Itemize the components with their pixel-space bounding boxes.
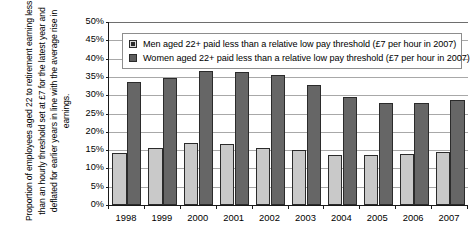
x-axis-tick-mark — [467, 205, 468, 209]
x-axis-tick-label: 2007 — [439, 212, 460, 223]
x-axis-tick-mark — [180, 205, 181, 209]
x-axis-tick-label: 2004 — [331, 212, 352, 223]
legend-item-women: Women aged 22+ paid less than a relative… — [129, 51, 456, 65]
x-axis-tick-mark — [252, 205, 253, 209]
bar-women-2007 — [450, 100, 464, 205]
bar-chart: Proportion of employees aged 22 to retir… — [0, 0, 475, 234]
y-axis-tick-label: 40% — [86, 54, 104, 63]
x-axis-tick-label: 2001 — [223, 212, 244, 223]
x-axis-tick-mark — [323, 205, 324, 209]
x-axis-tick-label: 2002 — [259, 212, 280, 223]
x-axis-tick-mark — [288, 205, 289, 209]
y-axis-tick-label: 20% — [86, 127, 104, 136]
bar-men-2007 — [436, 152, 450, 205]
y-axis-tick-label: 25% — [86, 109, 104, 118]
x-axis-tick-mark — [216, 205, 217, 209]
x-axis-tick-label: 1999 — [151, 212, 172, 223]
y-axis-tick-label: 5% — [91, 182, 104, 191]
x-axis-tick-label: 2005 — [367, 212, 388, 223]
legend-swatch-men-icon — [129, 40, 137, 48]
x-axis: 1998199920002001200220032004200520062007 — [108, 205, 467, 233]
y-axis-tick-label: 10% — [86, 164, 104, 173]
y-axis-tick-label: 45% — [86, 36, 104, 45]
legend-swatch-women-icon — [129, 54, 137, 62]
x-axis-tick-mark — [144, 205, 145, 209]
x-axis-tick-label: 1998 — [116, 212, 137, 223]
y-axis-tick-label: 0% — [91, 200, 104, 209]
x-axis-tick-mark — [359, 205, 360, 209]
y-axis-tick-labels: 0%5%10%15%20%25%30%35%40%45%50% — [70, 22, 104, 205]
x-axis-tick-mark — [108, 205, 109, 209]
x-axis-tick-mark — [395, 205, 396, 209]
y-axis-title: Proportion of employees aged 22 to retir… — [23, 0, 73, 222]
y-axis-tick-label: 35% — [86, 72, 104, 81]
x-axis-tick-label: 2003 — [295, 212, 316, 223]
x-axis-tick-mark — [431, 205, 432, 209]
y-axis-tick-label: 30% — [86, 91, 104, 100]
legend: Men aged 22+ paid less than a relative l… — [122, 33, 462, 69]
y-axis-tick-label: 50% — [86, 17, 104, 26]
legend-label-men: Men aged 22+ paid less than a relative l… — [143, 39, 456, 49]
y-axis-tick-label: 15% — [86, 145, 104, 154]
legend-label-women: Women aged 22+ paid less than a relative… — [143, 53, 470, 63]
x-axis-tick-label: 2000 — [187, 212, 208, 223]
legend-item-men: Men aged 22+ paid less than a relative l… — [129, 37, 456, 51]
x-axis-tick-label: 2006 — [403, 212, 424, 223]
